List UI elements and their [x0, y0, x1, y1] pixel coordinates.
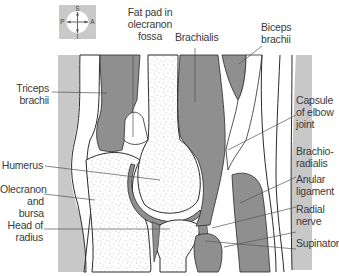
label-olecranon-bursa: Olecranonand bursa [0, 183, 44, 219]
label-biceps-brachii: Bicepsbrachii [261, 21, 291, 45]
label-capsule: Capsuleof elbowjoint [296, 94, 334, 130]
label-triceps-brachii: Tricepsbrachii [0, 82, 49, 106]
label-fat-pad: Fat pad inolecranonfossa [118, 6, 182, 42]
label-anular-ligament: Anularligament [296, 173, 334, 197]
label-humerus: Humerus [0, 159, 43, 171]
label-brachialis: Brachialis [175, 31, 219, 43]
brachioradialis-muscle [232, 173, 270, 272]
fat-pad [124, 112, 148, 144]
label-radial-nerve: Radialnerve [296, 203, 325, 227]
supinator-muscle [194, 234, 222, 272]
label-head-of-radius: Head ofradius [0, 219, 43, 243]
label-supinator: Supinator [296, 237, 339, 249]
label-brachioradialis: Brachio-radialis [296, 145, 334, 169]
radius-head [156, 220, 200, 272]
